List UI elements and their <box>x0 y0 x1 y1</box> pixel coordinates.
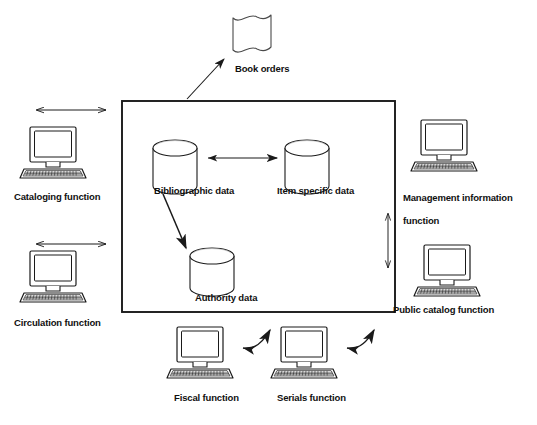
function-label-management-information: Management information function <box>393 180 535 238</box>
connector-box-to-book-orders <box>187 59 224 99</box>
diagram-canvas: Book orders Bibliographic data Item spec… <box>0 0 537 425</box>
computer-workstation-icon-management-information <box>411 120 477 171</box>
function-label-public-catalog: Public catalog function <box>393 304 494 316</box>
central-database-box <box>122 101 395 312</box>
computer-workstation-icon-public-catalog <box>414 245 480 296</box>
connector-bibliographic-to-authority <box>163 194 186 248</box>
function-label-circulation: Circulation function <box>14 317 101 329</box>
computer-workstation-icon-circulation <box>20 251 86 302</box>
computer-workstation-icon-fiscal <box>167 327 233 378</box>
database-label-authority: Authority data <box>195 292 257 304</box>
connector-fiscal-to-box <box>243 330 270 348</box>
function-label-fiscal: Fiscal function <box>174 392 239 404</box>
cylinder-database-icon-authority <box>190 248 234 296</box>
computer-workstation-icon-cataloging <box>20 127 86 178</box>
function-label-management-information-line2: function <box>403 215 439 226</box>
database-label-bibliographic: Bibliographic data <box>154 185 234 197</box>
wavy-document-icon <box>233 15 271 52</box>
connector-serials-to-box <box>347 330 374 348</box>
function-label-cataloging: Cataloging function <box>14 191 100 203</box>
function-label-management-information-line1: Management information <box>403 192 513 203</box>
computer-workstation-icon-serials <box>271 327 337 378</box>
function-label-serials: Serials function <box>277 392 346 404</box>
artifact-label-book-orders: Book orders <box>235 63 289 75</box>
database-label-item-specific: Item specific data <box>277 185 354 197</box>
